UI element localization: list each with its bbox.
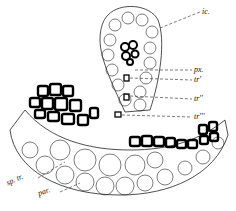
label-tr1: tr'	[194, 76, 201, 84]
figure: ic. px. tr' tr'' tr''' sp. tr. par.	[0, 0, 236, 211]
label-tr3: tr'''	[194, 113, 204, 121]
tissue-section-drawing	[0, 0, 236, 211]
label-ic: ic.	[202, 8, 210, 16]
label-px: px.	[194, 66, 204, 74]
label-tr2: tr''	[194, 95, 203, 103]
